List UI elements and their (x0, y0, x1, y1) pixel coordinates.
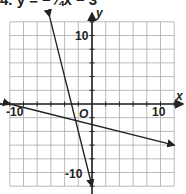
y-tick-label-neg10: -10 (65, 167, 83, 181)
x-tick-label-neg10: -10 (6, 105, 24, 119)
x-axis-label: x (175, 89, 184, 103)
axes (1, 13, 183, 194)
origin-label: O (79, 107, 89, 121)
axis-labels: xyO-101010-10 (6, 6, 184, 181)
y-tick-label-10: 10 (75, 29, 89, 43)
y-axis-label: y (95, 6, 104, 20)
x-tick-label-10: 10 (152, 105, 166, 119)
coordinate-plane: xyO-101010-10 (0, 0, 186, 194)
